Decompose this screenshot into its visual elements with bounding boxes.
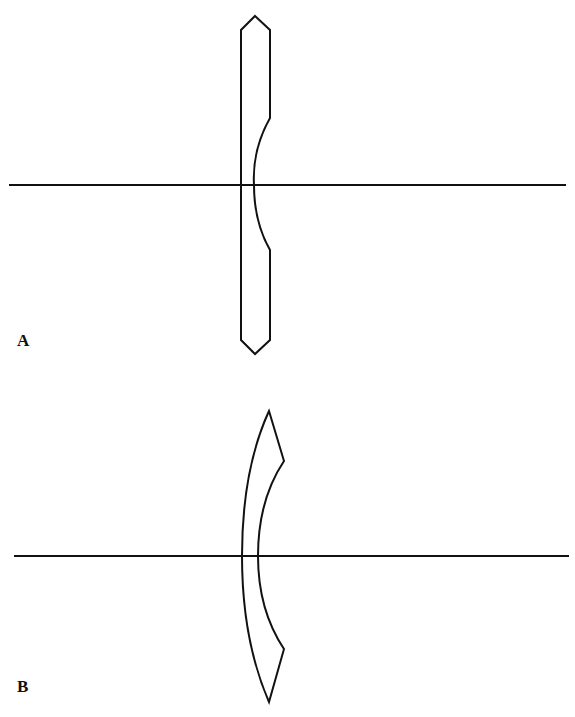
lens-diagram [0,0,575,717]
panel-label-b: B [17,677,28,697]
panel-label-a: A [17,331,29,351]
